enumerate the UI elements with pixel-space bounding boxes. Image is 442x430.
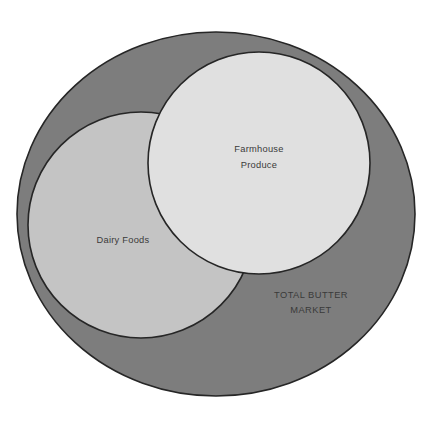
- venn-diagram-canvas: Farmhouse Produce Dairy Foods TOTAL BUTT…: [0, 0, 442, 430]
- set-label-dairy-foods: Dairy Foods: [97, 235, 150, 245]
- set-label-farmhouse-produce-line2: Produce: [241, 160, 277, 170]
- set-label-farmhouse-produce-line1: Farmhouse: [234, 144, 283, 154]
- set-label-total-butter-market-line1: TOTAL BUTTER: [274, 290, 348, 300]
- set-label-total-butter-market-line2: MARKET: [290, 305, 331, 315]
- set-label-dairy-foods-line1: Dairy Foods: [97, 235, 150, 245]
- euler-diagram-container: Farmhouse Produce Dairy Foods TOTAL BUTT…: [0, 0, 442, 430]
